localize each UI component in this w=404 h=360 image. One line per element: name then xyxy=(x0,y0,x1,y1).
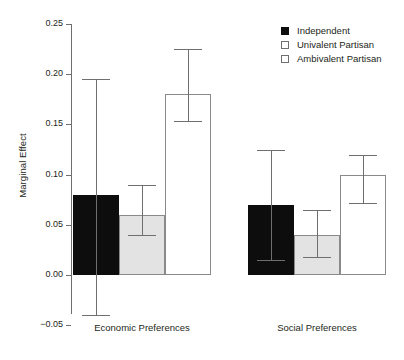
y-tick-label: 0.25 xyxy=(45,19,63,28)
legend-label: Univalent Partisan xyxy=(297,38,374,51)
y-tick-label: 0.05 xyxy=(45,220,63,229)
y-tick-label: −0.05 xyxy=(40,320,63,329)
error-bar-cap-upper xyxy=(349,155,377,156)
legend-swatch-icon xyxy=(281,41,289,49)
y-tick-label: 0.20 xyxy=(45,69,63,78)
x-axis-label-social-preferences: Social Preferences xyxy=(247,322,387,333)
error-bar-cap-upper xyxy=(257,150,285,151)
error-bar-stem xyxy=(142,185,143,235)
error-bar-cap-lower xyxy=(257,260,285,261)
error-bar-stem xyxy=(271,150,272,260)
y-axis-title: Marginal Effect xyxy=(17,106,28,226)
legend-swatch-icon xyxy=(281,55,289,63)
legend-label: Ambivalent Partisan xyxy=(297,52,381,65)
error-bar-cap-upper xyxy=(82,79,110,80)
error-bar-cap-lower xyxy=(349,203,377,204)
marginal-effect-bar-chart: 0.250.200.150.100.050.00−0.05 Marginal E… xyxy=(0,0,404,360)
error-bar-cap-upper xyxy=(128,185,156,186)
error-bar-cap-upper xyxy=(303,210,331,211)
y-tick-label: 0.10 xyxy=(45,170,63,179)
legend-label: Independent xyxy=(297,24,350,37)
error-bar-stem xyxy=(96,79,97,315)
error-bar-cap-upper xyxy=(174,49,202,50)
error-bar-stem xyxy=(188,49,189,121)
legend-swatch-icon xyxy=(281,27,289,35)
y-tick-mark xyxy=(66,275,71,276)
y-tick-label: 0.15 xyxy=(45,119,63,128)
y-tick-mark xyxy=(66,325,71,326)
y-axis-line xyxy=(71,24,72,314)
error-bar-stem xyxy=(363,155,364,203)
error-bar-stem xyxy=(317,210,318,257)
y-tick-mark xyxy=(66,124,71,125)
y-tick-mark xyxy=(66,74,71,75)
y-tick-label: 0.00 xyxy=(45,270,63,279)
error-bar-cap-lower xyxy=(128,235,156,236)
y-tick-mark xyxy=(66,175,71,176)
error-bar-cap-lower xyxy=(82,315,110,316)
y-tick-mark xyxy=(66,225,71,226)
x-axis-label-economic-preferences: Economic Preferences xyxy=(72,322,212,333)
error-bar-cap-lower xyxy=(303,257,331,258)
y-tick-mark xyxy=(66,24,71,25)
error-bar-cap-lower xyxy=(174,121,202,122)
